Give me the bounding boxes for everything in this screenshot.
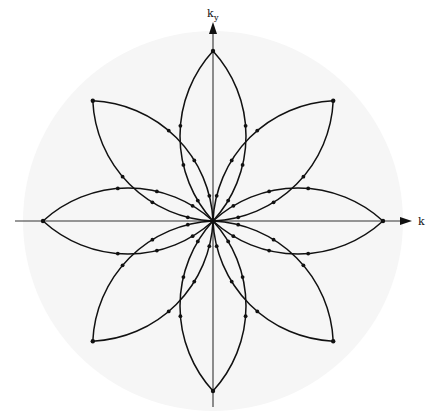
trajectory-sample-dot [192,159,196,163]
trajectory-sample-dot [186,223,190,227]
trajectory-sample-dot [155,190,159,194]
trajectory-sample-dot [232,204,236,208]
trajectory-sample-dot [267,190,271,194]
trajectory-sample-dot [116,187,120,191]
trajectory-sample-dot [255,310,259,314]
trajectory-sample-dot [241,275,245,279]
trajectory-sample-dot [306,252,310,256]
trajectory-sample-dot [215,194,219,198]
trajectory-sample-dot [167,129,171,133]
k-space-rose-diagram: k k y [0,0,429,419]
ky-axis-label: k [207,7,214,20]
trajectory-sample-dot [179,314,183,318]
trajectory-sample-dot [155,249,159,253]
trajectory-sample-dot [272,200,276,204]
trajectory-sample-dot [302,175,306,179]
trajectory-sample-dot [121,175,125,179]
trajectory-sample-dot [230,280,234,284]
petal-tip-dot [91,339,95,343]
kx-axis-label: k [418,215,425,228]
petal-tip-dot [381,219,385,223]
petal-tip-dot [331,339,335,343]
trajectory-sample-dot [244,314,248,318]
petal-tip-dot [91,99,95,103]
ky-axis-arrowhead [209,22,217,34]
trajectory-sample-dot [191,204,195,208]
trajectory-sample-dot [192,280,196,284]
trajectory-sample-dot [151,238,155,242]
trajectory-sample-dot [182,163,186,167]
trajectory-sample-dot [179,124,183,128]
trajectory-sample-dot [196,199,200,203]
petal-tip-dot [211,389,215,393]
trajectory-sample-dot [186,215,190,219]
trajectory-sample-dot [116,252,120,256]
trajectory-sample-dot [151,200,155,204]
trajectory-sample-dot [267,249,271,253]
trajectory-sample-dot [226,240,230,244]
trajectory-sample-dot [207,194,211,198]
trajectory-sample-dot [232,234,236,238]
trajectory-sample-dot [236,215,240,219]
trajectory-sample-dot [191,234,195,238]
trajectory-sample-dot [306,187,310,191]
petal-tip-dot [41,219,45,223]
trajectory-sample-dot [302,263,306,267]
trajectory-sample-dot [236,223,240,227]
trajectory-sample-dot [226,199,230,203]
petal-tip-dot [331,99,335,103]
trajectory-sample-dot [255,129,259,133]
trajectory-sample-dot [121,263,125,267]
ky-axis-subscript: y [213,13,219,22]
trajectory-sample-dot [167,310,171,314]
trajectory-sample-dot [196,240,200,244]
trajectory-sample-dot [241,163,245,167]
trajectory-sample-dot [182,275,186,279]
trajectory-sample-dot [244,124,248,128]
petal-tip-dot [211,49,215,53]
kx-axis-arrowhead [400,217,412,225]
trajectory-sample-dot [207,244,211,248]
trajectory-sample-dot [272,238,276,242]
trajectory-sample-dot [215,244,219,248]
trajectory-sample-dot [230,159,234,163]
